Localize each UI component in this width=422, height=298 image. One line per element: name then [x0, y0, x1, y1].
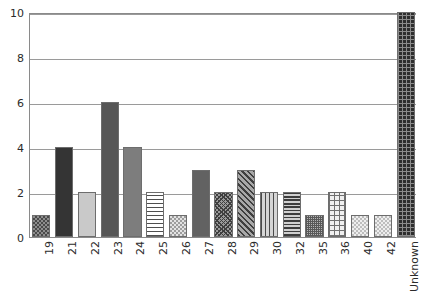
x-axis-tick-label: 36	[340, 241, 351, 255]
x-axis-tick-label: 35	[318, 241, 329, 255]
bar	[169, 215, 187, 238]
x-axis-tick-label: 29	[249, 241, 260, 255]
bars-layer	[30, 14, 416, 237]
y-axis-tick-label: 0	[0, 233, 24, 244]
x-axis-tick-label: 28	[227, 241, 238, 255]
bar	[123, 147, 141, 237]
bar	[237, 170, 255, 238]
x-axis-tick-label-text: 29	[249, 241, 260, 255]
x-axis: 19212223242526272829303235364042Unknown	[29, 241, 416, 298]
x-axis-tick-label-text: 40	[363, 241, 374, 255]
bar	[214, 192, 232, 237]
x-axis-tick-label-text: 22	[90, 241, 101, 255]
x-axis-tick-label-text: 21	[67, 241, 78, 255]
bar	[101, 102, 119, 237]
x-axis-tick-label: 21	[67, 241, 78, 255]
bar-chart: 0246810 19212223242526272829303235364042…	[0, 0, 422, 298]
x-axis-tick-label: 25	[158, 241, 169, 255]
x-axis-tick-label-text: 27	[204, 241, 215, 255]
y-axis-tick-label: 8	[0, 53, 24, 64]
x-axis-tick-label-text: 36	[340, 241, 351, 255]
x-axis-tick-label: 40	[363, 241, 374, 255]
y-axis-tick-label: 10	[0, 8, 24, 19]
bar	[328, 192, 346, 237]
x-axis-tick-label: 22	[90, 241, 101, 255]
x-axis-tick-label-text: 25	[158, 241, 169, 255]
y-axis-tick-label: 6	[0, 98, 24, 109]
x-axis-tick-label: 42	[386, 241, 397, 255]
bar	[397, 12, 415, 237]
bar	[305, 215, 323, 238]
y-axis: 0246810	[0, 0, 24, 298]
x-axis-tick-label-text: 24	[135, 241, 146, 255]
x-axis-tick-label-text: 32	[295, 241, 306, 255]
x-axis-tick-label-text: 23	[113, 241, 124, 255]
y-axis-tick-label: 4	[0, 143, 24, 154]
bar	[374, 215, 392, 238]
x-axis-tick-label: 19	[44, 241, 55, 255]
x-axis-tick-label-text: Unknown	[409, 241, 420, 292]
x-axis-tick-label: 24	[135, 241, 146, 255]
bar	[192, 170, 210, 238]
bar	[55, 147, 73, 237]
bar	[32, 215, 50, 238]
bar	[351, 215, 369, 238]
x-axis-tick-label-text: 42	[386, 241, 397, 255]
x-axis-tick-label: 32	[295, 241, 306, 255]
bar	[283, 192, 301, 237]
x-axis-tick-label-text: 30	[272, 241, 283, 255]
x-axis-tick-label-text: 35	[318, 241, 329, 255]
x-axis-tick-label: 27	[204, 241, 215, 255]
x-axis-tick-label-text: 28	[227, 241, 238, 255]
y-axis-tick-label: 2	[0, 188, 24, 199]
plot-area	[29, 13, 416, 238]
bar	[78, 192, 96, 237]
bar	[260, 192, 278, 237]
x-axis-tick-label-text: 19	[44, 241, 55, 255]
x-axis-tick-label: 30	[272, 241, 283, 255]
x-axis-tick-label: 26	[181, 241, 192, 255]
x-axis-tick-label: Unknown	[409, 241, 420, 292]
x-axis-tick-label-text: 26	[181, 241, 192, 255]
bar	[146, 192, 164, 237]
x-axis-tick-label: 23	[113, 241, 124, 255]
